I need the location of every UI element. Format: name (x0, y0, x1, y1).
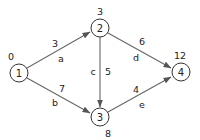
node-3: 3 8 (91, 108, 111, 139)
node-2-label: 2 (97, 23, 103, 34)
node-4-value: 12 (174, 50, 186, 61)
node-1-label: 1 (16, 68, 22, 79)
node-3-label: 3 (97, 112, 103, 123)
node-2: 2 3 (91, 6, 109, 38)
edge-b-weight: 7 (59, 83, 65, 94)
edge-c-name: c (90, 66, 95, 77)
node-4: 4 12 (172, 50, 190, 82)
edge-a-name: a (58, 53, 64, 64)
edge-a-weight: 3 (52, 38, 58, 49)
node-1-value: 0 (8, 51, 14, 62)
edge-e-name: e (139, 99, 145, 110)
edge-d-weight: 6 (139, 36, 145, 47)
edge-e-weight: 4 (133, 84, 139, 95)
edge-b-name: b (52, 97, 58, 108)
node-2-value: 3 (97, 6, 103, 17)
edge-c-weight: 5 (105, 66, 111, 77)
graph-diagram: 3 a 7 b c 5 6 d 4 e 1 0 2 3 3 8 4 12 (0, 0, 200, 140)
node-1: 1 0 (8, 51, 28, 83)
edge-d-name: d (133, 52, 139, 63)
node-3-value: 8 (105, 128, 111, 139)
node-4-label: 4 (178, 67, 184, 78)
